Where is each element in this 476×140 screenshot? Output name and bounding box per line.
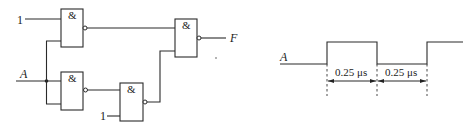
gate-symbol: & <box>182 19 191 31</box>
waveform-a: A 0.25 μs 0.25 μs <box>279 42 463 96</box>
output-label-f: F <box>229 31 238 45</box>
nand-gate-1: & <box>61 9 87 47</box>
gate-symbol: & <box>68 72 77 84</box>
dimension-arrow-2 <box>378 79 426 83</box>
wire-a-branch <box>47 41 62 104</box>
inversion-bubble <box>143 100 147 104</box>
stray-dot <box>215 57 217 59</box>
input-constant-bottom: 1 <box>100 109 106 123</box>
waveform-label-a: A <box>279 50 288 64</box>
square-wave <box>280 42 463 64</box>
nand-gate-4: & <box>175 19 201 57</box>
logic-circuit-figure: 1 A & & 1 & & <box>0 0 476 140</box>
interval-label-1: 0.25 μs <box>335 66 367 78</box>
inversion-bubble <box>83 26 87 30</box>
dimension-arrow-1 <box>328 79 376 83</box>
wire-g3-to-g4 <box>147 51 175 102</box>
gate-symbol: & <box>68 9 77 21</box>
input-label-a: A <box>19 67 28 81</box>
gate-symbol: & <box>127 83 136 95</box>
logic-circuit: 1 A & & 1 & & <box>16 9 238 123</box>
inversion-bubble <box>197 36 201 40</box>
nand-gate-2: & <box>61 72 88 110</box>
interval-label-2: 0.25 μs <box>385 66 417 78</box>
nand-gate-3: & <box>120 83 147 121</box>
inversion-bubble <box>84 88 88 92</box>
input-constant-top: 1 <box>17 13 23 27</box>
